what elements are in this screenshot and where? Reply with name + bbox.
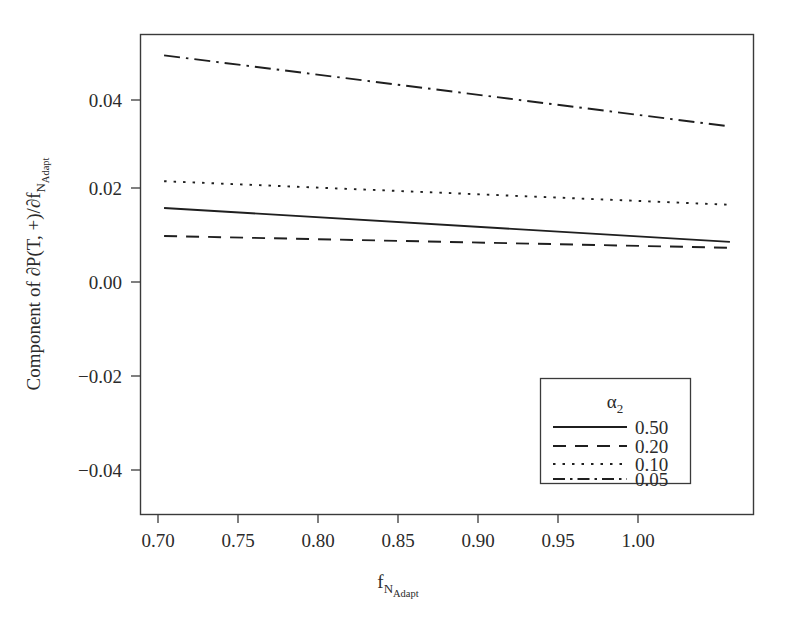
legend: α2 0.50 0.20 0.10 0.05 [541, 379, 691, 491]
x-axis-title: fNAdapt [377, 571, 418, 599]
legend-title-subscript: 2 [617, 401, 624, 416]
x-tick-label: 0.90 [461, 530, 494, 551]
y-axis-title-main: Component of ∂P(T, +)/∂f [23, 192, 45, 391]
x-axis-tick-labels: 0.70 0.75 0.80 0.85 0.90 0.95 1.00 [141, 530, 654, 551]
line-chart: 0.70 0.75 0.80 0.85 0.90 0.95 1.00 0.04 … [0, 0, 791, 627]
x-tick-label: 0.75 [221, 530, 254, 551]
y-tick-label: 0.02 [89, 178, 122, 199]
svg-text:fNAdapt: fNAdapt [377, 571, 418, 599]
x-tick-label: 0.70 [141, 530, 174, 551]
x-tick-label: 0.80 [301, 530, 334, 551]
x-tick-label: 1.00 [621, 530, 654, 551]
y-tick-label: 0.00 [89, 272, 122, 293]
legend-label-0-50: 0.50 [635, 417, 668, 438]
series-line-0-05 [164, 55, 730, 126]
y-axis-ticks [131, 100, 141, 470]
x-tick-label: 0.85 [381, 530, 414, 551]
y-axis-title: Component of ∂P(T, +)/∂fNAdapt [23, 157, 51, 390]
x-axis-ticks [158, 515, 638, 524]
x-axis-title-subsub: Adapt [393, 588, 419, 599]
series-group [164, 55, 730, 247]
y-tick-label: −0.02 [78, 366, 122, 387]
y-axis-title-subsub: Adapt [40, 157, 51, 183]
series-line-0-50 [164, 208, 730, 242]
svg-text:Component of ∂P(T, +)/∂fNAdapt: Component of ∂P(T, +)/∂fNAdapt [23, 157, 51, 390]
legend-label-0-05: 0.05 [635, 469, 668, 490]
chart-figure: 0.70 0.75 0.80 0.85 0.90 0.95 1.00 0.04 … [0, 0, 791, 627]
y-tick-label: 0.04 [89, 90, 123, 111]
y-tick-label: −0.04 [78, 460, 122, 481]
series-line-0-20 [164, 236, 730, 248]
y-axis-tick-labels: 0.04 0.02 0.00 −0.02 −0.04 [78, 90, 122, 481]
legend-title-symbol: α [607, 391, 617, 412]
x-tick-label: 0.95 [541, 530, 574, 551]
series-line-0-10 [164, 181, 730, 205]
